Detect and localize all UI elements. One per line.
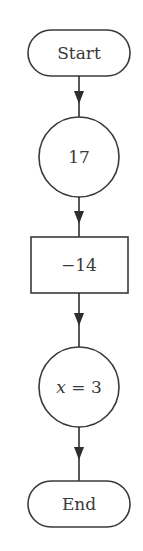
arrow-x3-to-end bbox=[74, 427, 84, 481]
flowchart: Start 17 −14 x = 3 End bbox=[0, 0, 143, 551]
arrow-start-to-17 bbox=[74, 76, 84, 117]
result-node-x-equals-3: x = 3 bbox=[39, 347, 119, 427]
start-node: Start bbox=[28, 30, 130, 76]
process-node-minus14: −14 bbox=[31, 237, 128, 293]
node-17-label: 17 bbox=[68, 147, 90, 167]
arrowhead-icon bbox=[74, 313, 84, 326]
node-x3-label: x = 3 bbox=[56, 377, 101, 397]
process-node-17: 17 bbox=[39, 117, 119, 197]
end-node: End bbox=[28, 481, 130, 527]
start-label: Start bbox=[57, 43, 101, 63]
variable-x: x bbox=[56, 377, 66, 397]
arrowhead-icon bbox=[74, 447, 84, 460]
arrow-minus14-to-x3 bbox=[74, 293, 84, 347]
node-minus14-label: −14 bbox=[61, 255, 97, 275]
arrowhead-icon bbox=[74, 211, 84, 224]
end-label: End bbox=[62, 494, 96, 514]
arrow-17-to-minus14 bbox=[74, 197, 84, 237]
equals-3: = 3 bbox=[66, 377, 102, 397]
arrowhead-icon bbox=[74, 91, 84, 104]
